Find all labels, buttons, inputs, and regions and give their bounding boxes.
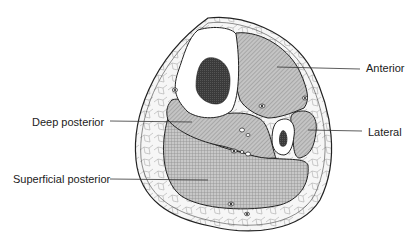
label-deep-posterior: Deep posterior bbox=[32, 116, 104, 128]
label-superficial-posterior: Superficial posterior bbox=[13, 173, 111, 185]
tibia-marrow bbox=[196, 58, 230, 104]
leg-cross-section-diagram: Anterior Lateral Deep posterior Superfic… bbox=[0, 0, 418, 241]
anterior-compartment bbox=[232, 33, 307, 118]
label-lateral: Lateral bbox=[368, 126, 402, 138]
label-anterior: Anterior bbox=[366, 62, 405, 74]
